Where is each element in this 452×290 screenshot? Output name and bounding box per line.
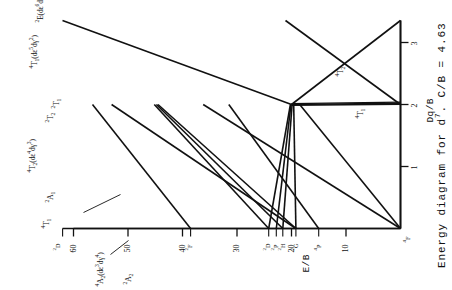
figure-caption-text: Energy diagram for d7. C/B = 4.63 bbox=[436, 23, 448, 290]
line-4T2-F bbox=[299, 104, 400, 228]
line-2E-strong-up bbox=[62, 20, 291, 104]
doublet-bundle bbox=[291, 102, 400, 105]
y-tick-50: 50 bbox=[123, 244, 131, 252]
state-label-2A2: 2A2 bbox=[124, 273, 131, 284]
line-2T2-G bbox=[158, 104, 296, 228]
state-lines bbox=[62, 20, 400, 228]
x-tick-2: 2 bbox=[410, 103, 418, 107]
state-label-4T1: 4T1(dε5dγ2) bbox=[30, 35, 37, 68]
state-label-2E: 2E(dε6dγ1) bbox=[36, 0, 43, 22]
caption-superscript: 7 bbox=[434, 113, 442, 118]
y-axis-title: E/B bbox=[300, 254, 311, 272]
state-label-2A1: 2A1 bbox=[46, 191, 53, 202]
term-label-2H: 2H bbox=[279, 243, 285, 250]
state-label-4T1-low: 4T1 bbox=[356, 108, 363, 118]
term-label-4F: 4F bbox=[404, 236, 410, 242]
term-label-2F: 2F bbox=[186, 244, 192, 250]
state-label-4T1-high: 4T1 bbox=[42, 218, 49, 228]
state-label-2T1: 2T1 bbox=[52, 98, 59, 108]
caption-suffix: . C/B = 4.63 bbox=[436, 23, 448, 113]
term-label-2D: 2D bbox=[264, 243, 270, 250]
x-tick-3: 3 bbox=[410, 41, 418, 45]
caption-prefix: Energy diagram for d bbox=[436, 118, 448, 268]
state-label-2T2: 2T2 bbox=[46, 112, 53, 122]
line-2A1-G bbox=[111, 104, 295, 228]
term-label-2D-high: 2D bbox=[54, 243, 60, 250]
state-label-4T2-low: 4T2 bbox=[336, 66, 343, 76]
x-tick-1: 1 bbox=[410, 165, 418, 169]
line-2T2-D bbox=[154, 104, 268, 228]
y-tick-10: 10 bbox=[341, 244, 349, 252]
line-4T1-P bbox=[228, 104, 318, 228]
line-4A2-F bbox=[203, 104, 400, 228]
state-label-4T2: 4T2(dε4dγ3) bbox=[28, 139, 35, 172]
leader-lines bbox=[83, 194, 128, 254]
state-label-4A2: 4A2(dε3dγ4) bbox=[96, 252, 103, 286]
line-2E-G bbox=[293, 104, 295, 228]
y-tick-30: 30 bbox=[232, 244, 240, 252]
term-label-4P: 4P bbox=[315, 244, 321, 250]
y-tick-60: 60 bbox=[69, 244, 77, 252]
line-4T2-strong bbox=[285, 20, 400, 104]
term-label-2G: 2G bbox=[292, 243, 298, 250]
line-2T1-P bbox=[276, 104, 291, 228]
figure-caption: Energy diagram for d7. C/B = 4.63 bbox=[429, 0, 452, 290]
